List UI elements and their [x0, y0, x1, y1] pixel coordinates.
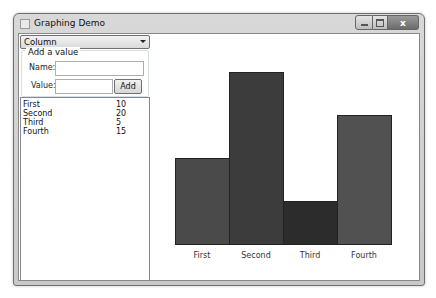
app-icon[interactable] — [20, 19, 30, 29]
bar-first — [175, 158, 230, 245]
x-label-second: Second — [229, 251, 283, 260]
chevron-down-icon — [140, 40, 146, 43]
value-input[interactable] — [55, 79, 113, 94]
title-bar[interactable]: Graphing Demo x — [14, 14, 424, 33]
x-label-first: First — [175, 251, 229, 260]
x-label-third: Third — [283, 251, 337, 260]
name-input[interactable] — [55, 61, 144, 76]
bar-second — [229, 72, 284, 245]
list-item[interactable]: Fourth15 — [23, 127, 49, 137]
bar-fourth — [337, 115, 392, 245]
bar-third — [283, 201, 338, 245]
values-listbox[interactable]: First10 Second20 Third5 Fourth15 — [20, 97, 150, 280]
column-chart: First Second Third Fourth — [169, 54, 409, 274]
window-title: Graphing Demo — [34, 18, 105, 28]
close-icon: x — [400, 18, 406, 28]
chart-type-selected: Column — [24, 37, 57, 47]
x-label-fourth: Fourth — [337, 251, 391, 260]
close-button[interactable]: x — [388, 15, 419, 30]
value-label: Value: — [31, 81, 56, 90]
add-value-group: Add a value Name: Value: Add — [21, 50, 149, 97]
group-title: Add a value — [26, 47, 80, 57]
minimize-button[interactable] — [355, 15, 373, 30]
name-label: Name: — [29, 63, 55, 72]
maximize-icon — [376, 19, 384, 27]
maximize-button[interactable] — [373, 15, 388, 30]
minimize-icon — [361, 24, 368, 26]
add-button[interactable]: Add — [114, 79, 142, 94]
client-area: Column Add a value Name: Value: Add Firs… — [18, 33, 420, 281]
caption-buttons: x — [355, 15, 419, 29]
app-window: Graphing Demo x Column Add a value Name:… — [13, 13, 425, 286]
